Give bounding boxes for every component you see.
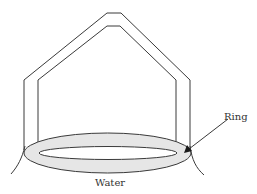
ring-inner-edge [39, 147, 177, 160]
wire-frame-inner [38, 26, 176, 142]
water-label: Water [95, 177, 125, 188]
ring-label: Ring [224, 111, 248, 122]
wire-frame-outer [24, 13, 190, 150]
water-surface-right [190, 146, 204, 175]
ring-on-water-diagram: Ring Water [0, 0, 257, 194]
ring-arrow-line [189, 119, 228, 149]
water-surface-left [11, 146, 25, 174]
